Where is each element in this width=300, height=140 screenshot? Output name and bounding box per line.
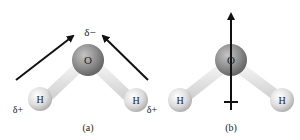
partial-positive-charge-right: δ+ bbox=[147, 104, 158, 115]
panel-b: O H H (b) bbox=[168, 14, 294, 134]
caption-b: (b) bbox=[225, 122, 237, 134]
panel-a: O H H δ− δ+ δ+ (a) bbox=[13, 26, 158, 134]
partial-negative-charge: δ− bbox=[84, 26, 95, 38]
oxygen-label: O bbox=[227, 54, 235, 66]
hydrogen-label-left: H bbox=[36, 94, 43, 105]
hydrogen-label-right: H bbox=[278, 95, 285, 106]
hydrogen-label-left: H bbox=[176, 95, 183, 106]
hydrogen-label-right: H bbox=[132, 95, 139, 106]
oxygen-label: O bbox=[84, 54, 92, 66]
caption-a: (a) bbox=[82, 122, 93, 134]
partial-positive-charge-left: δ+ bbox=[13, 104, 24, 115]
water-dipole-diagram: O H H δ− δ+ δ+ (a) O H H (b) bbox=[0, 0, 300, 140]
